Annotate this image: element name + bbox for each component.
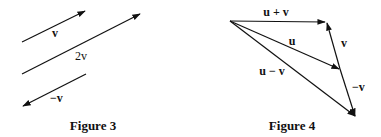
figure-3: v 2v −v Figure 3 bbox=[22, 11, 140, 133]
vector-u-plus-v-label: u + v bbox=[263, 5, 289, 19]
vector-neg-v-label: −v bbox=[352, 80, 365, 94]
vector-2v-arrow bbox=[22, 14, 140, 74]
vector-u-plus-v-arrow bbox=[230, 21, 325, 22]
vector-neg-v-label: −v bbox=[50, 91, 63, 105]
figure-4: u + v u u − v v −v Figure 4 bbox=[230, 5, 365, 133]
vector-2v-label: 2v bbox=[75, 49, 87, 63]
figure-4-caption: Figure 4 bbox=[269, 118, 316, 133]
vector-u-minus-v-label: u − v bbox=[259, 64, 285, 78]
vector-v-arrow bbox=[327, 23, 340, 69]
vector-v-label: v bbox=[341, 36, 347, 50]
vector-v-label: v bbox=[52, 26, 58, 40]
vector-u-label: u bbox=[289, 34, 296, 48]
vector-figures: v 2v −v Figure 3 u + v u u − v v −v Figu… bbox=[0, 0, 381, 137]
figure-3-caption: Figure 3 bbox=[70, 118, 117, 133]
